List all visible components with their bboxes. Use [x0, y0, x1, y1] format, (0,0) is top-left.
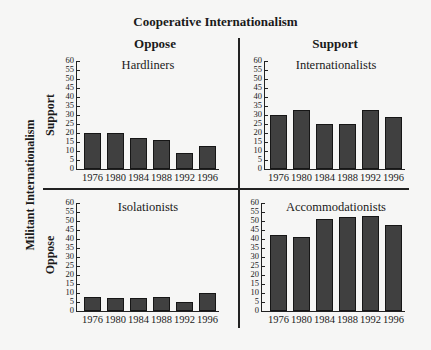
bar-internationalists-1996 — [385, 117, 402, 169]
y-tick-label: 45 — [245, 225, 259, 234]
bar-isolationists-1984 — [130, 298, 147, 311]
bar-isolationists-1980 — [107, 298, 124, 311]
y-tick-label: 25 — [248, 119, 262, 128]
y-tick — [76, 239, 80, 240]
y-tick — [264, 61, 268, 62]
y-tick — [76, 284, 80, 285]
y-tick — [261, 221, 265, 222]
bar-accommodationists-1976 — [270, 235, 287, 311]
y-tick — [264, 142, 268, 143]
vertical-divider — [238, 38, 240, 328]
bar-hardliners-1984 — [130, 138, 147, 169]
bar-accommodationists-1980 — [293, 237, 310, 311]
y-tick-label: 25 — [60, 119, 74, 128]
y-tick — [76, 302, 80, 303]
column-header-oppose: Oppose — [75, 36, 235, 52]
y-tick — [76, 79, 80, 80]
y-tick-label: 40 — [248, 92, 262, 101]
y-tick — [261, 257, 265, 258]
y-tick — [76, 275, 80, 276]
y-tick — [76, 257, 80, 258]
y-tick — [264, 133, 268, 134]
y-tick-label: 35 — [245, 243, 259, 252]
bar-hardliners-1980 — [107, 133, 124, 169]
y-tick-label: 60 — [245, 198, 259, 207]
y-tick-label: 0 — [60, 164, 74, 173]
horizontal-divider — [43, 188, 409, 190]
y-tick — [261, 266, 265, 267]
bar-hardliners-1996 — [199, 146, 216, 169]
y-tick-label: 40 — [60, 234, 74, 243]
bar-hardliners-1988 — [153, 140, 170, 169]
y-tick — [264, 97, 268, 98]
y-tick-label: 15 — [60, 137, 74, 146]
y-tick-label: 25 — [60, 261, 74, 270]
bar-internationalists-1992 — [362, 110, 379, 169]
bar-isolationists-1992 — [176, 302, 193, 311]
y-tick-label: 50 — [60, 74, 74, 83]
y-tick-label: 55 — [60, 207, 74, 216]
y-tick — [76, 212, 80, 213]
y-tick — [264, 169, 268, 170]
y-tick-label: 55 — [60, 65, 74, 74]
y-tick-label: 30 — [245, 252, 259, 261]
y-tick — [261, 230, 265, 231]
y-tick-label: 45 — [248, 83, 262, 92]
bar-hardliners-1976 — [84, 133, 101, 169]
y-tick — [261, 275, 265, 276]
y-tick-label: 10 — [60, 288, 74, 297]
y-tick-label: 50 — [60, 216, 74, 225]
column-header-support: Support — [255, 36, 415, 52]
y-tick-label: 20 — [60, 270, 74, 279]
y-tick-label: 25 — [245, 261, 259, 270]
y-tick-label: 35 — [60, 243, 74, 252]
y-tick — [264, 88, 268, 89]
y-tick-label: 50 — [248, 74, 262, 83]
y-tick — [76, 61, 80, 62]
y-tick-label: 40 — [60, 92, 74, 101]
y-tick — [261, 239, 265, 240]
y-tick — [264, 151, 268, 152]
y-tick — [76, 133, 80, 134]
y-tick-label: 40 — [245, 234, 259, 243]
y-tick — [76, 88, 80, 89]
y-tick — [76, 169, 80, 170]
bar-internationalists-1980 — [293, 110, 310, 169]
y-tick-label: 50 — [245, 216, 259, 225]
y-tick-label: 0 — [248, 164, 262, 173]
x-tick-label: 1996 — [195, 172, 221, 183]
panel-title-isolationists: Isolationists — [88, 200, 208, 215]
y-tick-label: 5 — [245, 297, 259, 306]
y-tick — [76, 311, 80, 312]
y-tick-label: 15 — [248, 137, 262, 146]
y-tick-label: 60 — [248, 56, 262, 65]
y-tick — [76, 151, 80, 152]
y-tick — [264, 160, 268, 161]
y-tick — [261, 293, 265, 294]
y-tick-label: 55 — [245, 207, 259, 216]
y-tick — [261, 203, 265, 204]
x-axis — [76, 311, 219, 312]
x-axis — [264, 169, 405, 170]
y-tick-label: 0 — [245, 306, 259, 315]
y-tick — [261, 311, 265, 312]
y-tick — [76, 221, 80, 222]
row-header-support: Support — [43, 75, 57, 155]
bar-accommodationists-1996 — [385, 225, 402, 311]
y-tick-label: 60 — [60, 198, 74, 207]
y-tick — [76, 230, 80, 231]
y-tick-label: 35 — [60, 101, 74, 110]
y-tick — [76, 115, 80, 116]
y-tick — [76, 70, 80, 71]
y-tick-label: 0 — [60, 306, 74, 315]
y-tick-label: 20 — [248, 128, 262, 137]
bar-accommodationists-1988 — [339, 217, 356, 311]
y-tick-label: 55 — [248, 65, 262, 74]
y-tick — [76, 266, 80, 267]
y-tick — [76, 106, 80, 107]
y-tick — [264, 115, 268, 116]
y-tick — [261, 212, 265, 213]
bar-accommodationists-1984 — [316, 219, 333, 311]
panel-title-hardliners: Hardliners — [88, 58, 208, 73]
bar-accommodationists-1992 — [362, 216, 379, 311]
